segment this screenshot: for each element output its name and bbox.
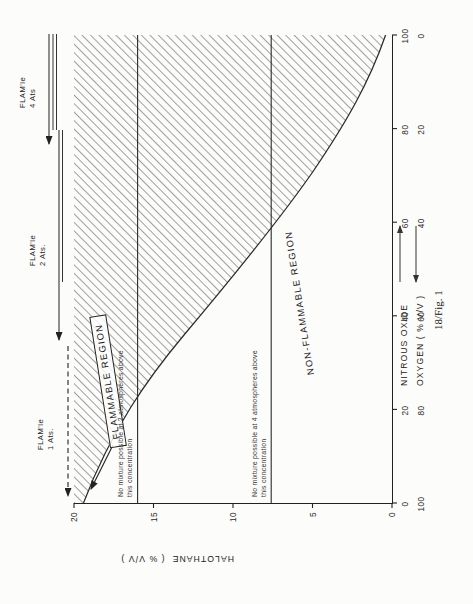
- rotated-figure-wrapper: FLAM'le 1 Ats. FLAM'le 2 Ats. FLAM'le 4 …: [0, 0, 473, 604]
- pressure-marker-label-4atm: FLAM'le 4 Ats: [18, 77, 37, 108]
- pressure-marker-label-1atm: FLAM'le 1 Ats.: [36, 419, 55, 450]
- pressure-marker-1atm-bottom: 1 Ats.: [45, 428, 54, 450]
- y-axis-units: ( % V/V ): [120, 554, 164, 564]
- y-tick-label-15: 15: [148, 512, 158, 532]
- figure-canvas: FLAM'le 1 Ats. FLAM'le 2 Ats. FLAM'le 4 …: [22, 22, 452, 582]
- note-2-atmospheres-line1: No mixture possible at 2 atmospheres abo…: [117, 350, 124, 497]
- y-tick-label-20: 20: [69, 512, 79, 532]
- y-tick-label-5: 5: [307, 512, 317, 532]
- figure-caption: 18/Fig. 1: [432, 290, 444, 330]
- pressure-marker-2atm-top: FLAM'le: [28, 235, 37, 266]
- pressure-marker-4atm-top: FLAM'le: [18, 77, 27, 108]
- pressure-marker-label-2atm: FLAM'le 2 Ats.: [28, 235, 47, 266]
- y-axis-ticks: [74, 503, 392, 508]
- pressure-marker-2atm-bottom: 2 Ats.: [37, 244, 46, 266]
- note-2-atmospheres-line2: this concentration: [126, 438, 133, 497]
- note-2-atmospheres: No mixture possible at 2 atmospheres abo…: [116, 350, 134, 497]
- note-4-atmospheres: No mixture possible at 4 atmospheres abo…: [250, 350, 268, 497]
- pressure-marker-4atm-bottom: 4 Ats: [27, 89, 36, 108]
- pressure-marker-1atm-top: FLAM'le: [36, 419, 45, 450]
- plot-area: FLAMMABLE REGION NON-FLAMMABLE REGION No…: [74, 35, 393, 504]
- note-4-atmospheres-line2: this concentration: [260, 438, 267, 497]
- note-4-atmospheres-line1: No mixture possible at 4 atmospheres abo…: [251, 350, 258, 497]
- figure-page: FLAM'le 1 Ats. FLAM'le 2 Ats. FLAM'le 4 …: [0, 0, 473, 604]
- y-axis-title: HALOTHANE ( % V/V ): [54, 554, 234, 564]
- y-axis-title-text: HALOTHANE: [171, 554, 233, 564]
- y-tick-label-10: 10: [228, 512, 238, 532]
